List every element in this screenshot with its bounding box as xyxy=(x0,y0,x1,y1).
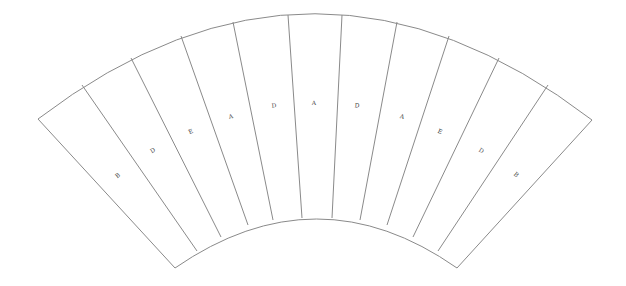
segment-divider xyxy=(332,15,342,218)
segment-label: B xyxy=(513,170,521,179)
segment-label: D xyxy=(271,101,277,108)
segment-label: B xyxy=(113,171,121,180)
segment-divider xyxy=(360,22,397,220)
segment-divider xyxy=(82,85,197,251)
segment-label: D xyxy=(354,101,360,108)
segment-label: A xyxy=(227,112,235,120)
segment-label: A xyxy=(398,112,406,120)
segment-label: E xyxy=(187,127,194,135)
segment-label: A xyxy=(311,99,317,106)
segment-label: D xyxy=(149,146,157,155)
segment-divider xyxy=(233,22,273,220)
segment-label: D xyxy=(478,146,486,155)
segment-label: E xyxy=(437,127,444,135)
segment-divider xyxy=(131,58,221,237)
segment-divider xyxy=(288,15,302,218)
segment-divider xyxy=(413,58,499,237)
segment-divider xyxy=(438,85,548,251)
annular-sector-diagram: BDEADADAEDB xyxy=(0,0,626,286)
